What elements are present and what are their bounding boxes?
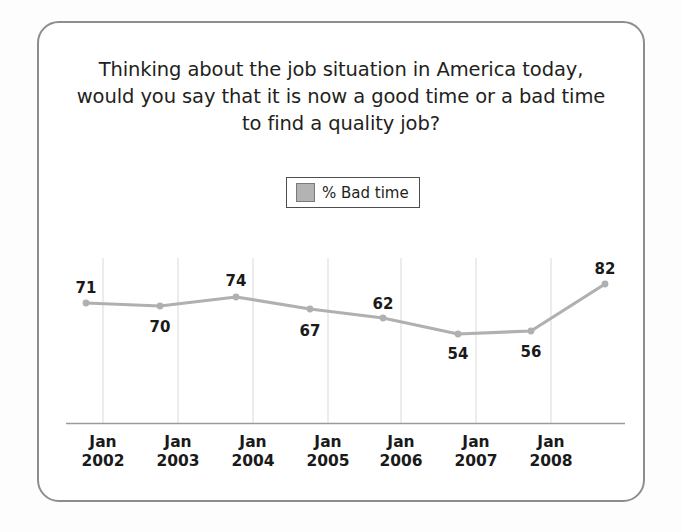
- title-line-1: Thinking about the job situation in Amer…: [58, 56, 624, 83]
- legend-swatch-icon: [296, 183, 315, 202]
- x-tick-label-2007: Jan2007: [454, 433, 497, 471]
- x-tick-label-2003: Jan2003: [156, 433, 199, 471]
- chart-legend: % Bad time: [286, 177, 420, 208]
- x-tick-month: Jan: [306, 433, 349, 452]
- x-tick-label-2005: Jan2005: [306, 433, 349, 471]
- x-tick-year: 2003: [156, 452, 199, 471]
- chart-page: Thinking about the job situation in Amer…: [0, 0, 681, 532]
- x-tick-month: Jan: [379, 433, 422, 452]
- x-tick-month: Jan: [156, 433, 199, 452]
- title-line-2: would you say that it is now a good time…: [58, 83, 624, 110]
- legend-label-bad-time: % Bad time: [322, 184, 409, 202]
- x-tick-label-2006: Jan2006: [379, 433, 422, 471]
- x-tick-month: Jan: [231, 433, 274, 452]
- page-title: Thinking about the job situation in Amer…: [58, 56, 624, 137]
- value-label-70: 70: [150, 318, 171, 336]
- x-tick-label-2008: Jan2008: [529, 433, 572, 471]
- x-tick-month: Jan: [454, 433, 497, 452]
- value-label-62: 62: [373, 295, 394, 313]
- x-tick-year: 2002: [81, 452, 124, 471]
- x-tick-year: 2007: [454, 452, 497, 471]
- title-line-3: to find a quality job?: [58, 110, 624, 137]
- value-label-56: 56: [521, 343, 542, 361]
- x-tick-label-2002: Jan2002: [81, 433, 124, 471]
- x-tick-year: 2006: [379, 452, 422, 471]
- value-label-54: 54: [448, 345, 469, 363]
- value-label-74: 74: [226, 272, 247, 290]
- x-tick-year: 2005: [306, 452, 349, 471]
- x-tick-label-2004: Jan2004: [231, 433, 274, 471]
- x-tick-year: 2008: [529, 452, 572, 471]
- value-label-71: 71: [76, 279, 97, 297]
- x-tick-year: 2004: [231, 452, 274, 471]
- value-label-82: 82: [595, 260, 616, 278]
- value-label-67: 67: [300, 322, 321, 340]
- x-tick-month: Jan: [529, 433, 572, 452]
- x-tick-month: Jan: [81, 433, 124, 452]
